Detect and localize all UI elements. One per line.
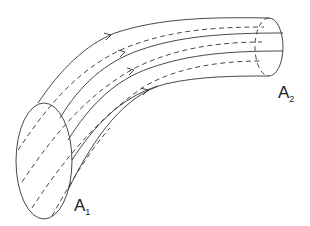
streamline-solid-2 bbox=[68, 51, 283, 140]
streamline-solid-3 bbox=[72, 86, 158, 160]
tube-top-edge bbox=[38, 18, 269, 103]
inlet-label: A1 bbox=[74, 196, 90, 217]
streamline-dashed-3 bbox=[32, 61, 262, 208]
streamline-dashed-2 bbox=[22, 42, 262, 182]
tube-bottom-edge bbox=[68, 76, 269, 190]
streamline-solid-1 bbox=[60, 33, 283, 118]
flow-tube-diagram: A1 A2 bbox=[0, 0, 310, 226]
outlet-label: A2 bbox=[278, 83, 294, 104]
arrow-icon bbox=[118, 50, 125, 57]
outlet-cross-section-front bbox=[269, 18, 283, 76]
inlet-cross-section bbox=[16, 103, 72, 219]
